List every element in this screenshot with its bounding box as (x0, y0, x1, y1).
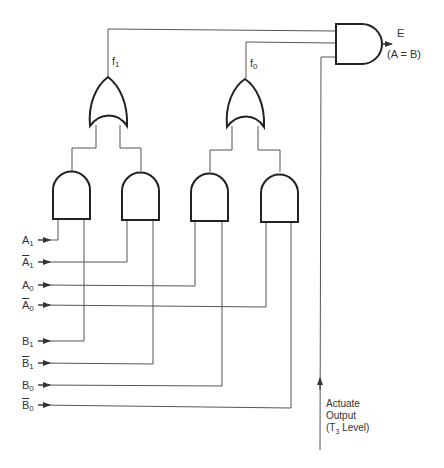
wire-A1 (38, 219, 58, 240)
label-B0-bar: B0 (22, 400, 34, 413)
label-B0: B0 (22, 380, 34, 393)
wire-f0 (246, 42, 336, 78)
circuit-canvas (0, 0, 444, 468)
wire-B0n (38, 222, 291, 408)
label-output-note: (A = B) (387, 49, 421, 60)
wire-B1n (38, 220, 153, 364)
and-gate-3 (191, 174, 228, 221)
wire-and4-or0 (258, 126, 280, 172)
wire-and1-or1 (72, 125, 96, 171)
label-A0-bar: A0 (22, 300, 34, 313)
wire-A1n (38, 220, 127, 262)
wire-A0 (38, 221, 195, 286)
label-A1-bar: A1 (22, 257, 34, 270)
wire-B0 (38, 221, 222, 386)
wire-B1 (38, 219, 84, 341)
label-B1: B1 (22, 336, 34, 349)
wire-and2-or1 (120, 125, 141, 171)
label-B1-bar: B1 (22, 358, 34, 371)
or-gate-0 (227, 79, 264, 127)
label-A0: A0 (22, 280, 34, 293)
label-f0: f0 (250, 58, 258, 71)
or-gate-1 (90, 77, 127, 126)
label-output-E: E (397, 28, 404, 39)
and-gate-4 (261, 175, 298, 222)
and-gate-output (336, 24, 382, 64)
wire-and3-or0 (210, 126, 232, 172)
label-actuate-output: Actuate Output (T3 Level) (326, 398, 369, 438)
wire-actuate (320, 57, 336, 450)
and-gate-2 (122, 173, 159, 221)
label-A1: A1 (22, 235, 34, 248)
and-gate-1 (53, 172, 90, 220)
label-f1: f1 (112, 56, 120, 69)
wire-f1 (108, 29, 336, 77)
wire-A0n (38, 222, 266, 307)
